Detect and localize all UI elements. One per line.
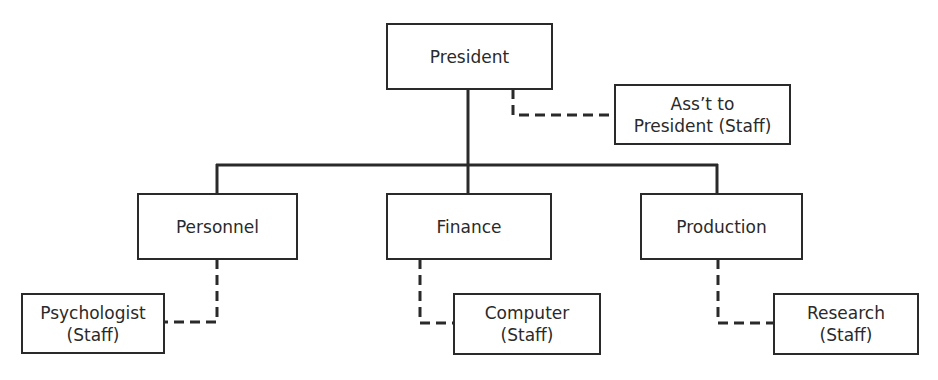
node-label: Production bbox=[676, 216, 766, 238]
node-research: Research (Staff) bbox=[773, 293, 919, 355]
node-label-line1: Ass’t to bbox=[671, 93, 735, 115]
node-label: Personnel bbox=[176, 216, 259, 238]
node-label-line2: (Staff) bbox=[820, 324, 873, 346]
node-label-line1: Psychologist bbox=[40, 302, 146, 324]
node-psychologist: Psychologist (Staff) bbox=[21, 293, 165, 354]
dashed-line-to-computer bbox=[420, 259, 453, 323]
node-label: Finance bbox=[436, 216, 501, 238]
node-label-line1: Research bbox=[807, 302, 885, 324]
node-label-line2: President (Staff) bbox=[634, 115, 772, 137]
node-personnel: Personnel bbox=[137, 193, 298, 260]
node-label-line1: Computer bbox=[485, 302, 570, 324]
node-label-line2: (Staff) bbox=[501, 324, 554, 346]
dashed-line-to-psychologist bbox=[164, 259, 217, 322]
node-label: President bbox=[430, 46, 509, 68]
dashed-line-to-assistant bbox=[513, 89, 614, 115]
dashed-line-to-research bbox=[718, 259, 773, 323]
node-computer: Computer (Staff) bbox=[453, 293, 601, 355]
node-production: Production bbox=[640, 193, 803, 260]
node-label-line2: (Staff) bbox=[67, 324, 120, 346]
node-finance: Finance bbox=[386, 193, 552, 260]
node-president: President bbox=[386, 23, 553, 90]
node-assistant-to-president: Ass’t to President (Staff) bbox=[614, 84, 791, 145]
